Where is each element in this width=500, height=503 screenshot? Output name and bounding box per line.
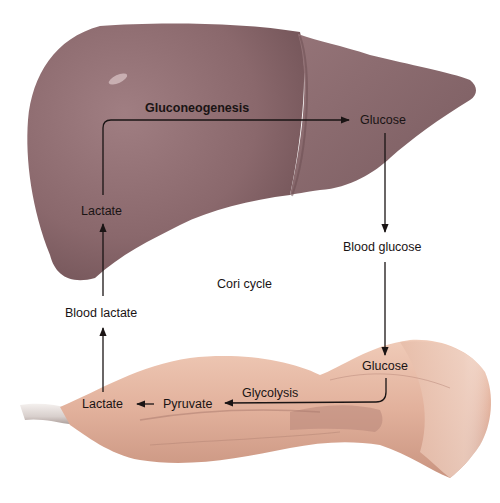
- liver-left-lobe: [27, 24, 304, 281]
- label-blood-glucose: Blood glucose: [343, 240, 422, 254]
- label-blood-lactate: Blood lactate: [65, 306, 137, 320]
- label-muscle-lactate: Lactate: [82, 397, 123, 411]
- label-muscle-glucose: Glucose: [362, 359, 408, 373]
- muscle-tendon-band: [290, 405, 382, 432]
- label-liver-lactate: Lactate: [81, 204, 122, 218]
- label-glycolysis: Glycolysis: [242, 386, 298, 400]
- cori-cycle-diagram: Gluconeogenesis Glucose Lactate Blood gl…: [0, 0, 500, 503]
- label-liver-glucose: Glucose: [360, 113, 406, 127]
- label-cori-cycle: Cori cycle: [217, 277, 272, 291]
- diagram-canvas: Gluconeogenesis Glucose Lactate Blood gl…: [0, 0, 500, 503]
- label-pyruvate: Pyruvate: [163, 397, 212, 411]
- label-gluconeogenesis: Gluconeogenesis: [145, 101, 249, 115]
